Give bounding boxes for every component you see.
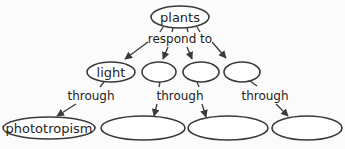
node-stimulus-blank-4[interactable] xyxy=(224,62,260,82)
arrows-to-responses xyxy=(57,104,288,117)
node-plants: plants xyxy=(151,6,209,28)
node-phototropism: phototropism xyxy=(3,117,95,139)
link-respond-to: respond to xyxy=(148,32,212,46)
node-response-blank-4[interactable] xyxy=(272,116,342,140)
node-plants-label: plants xyxy=(160,10,200,25)
node-stimulus-blank-2[interactable] xyxy=(142,62,176,82)
node-light-label: light xyxy=(97,65,126,80)
node-stimulus-blank-3[interactable] xyxy=(183,62,219,82)
node-response-blank-3[interactable] xyxy=(188,116,268,140)
link-through-1: through xyxy=(67,89,114,103)
concept-map: plants respond to light thro xyxy=(0,0,345,149)
node-response-blank-2[interactable] xyxy=(101,116,185,140)
node-phototropism-label: phototropism xyxy=(6,121,93,136)
node-light: light xyxy=(87,62,135,82)
stimulus-connector-lines xyxy=(100,81,257,87)
link-through-2: through xyxy=(156,89,203,103)
link-through-3: through xyxy=(241,89,288,103)
